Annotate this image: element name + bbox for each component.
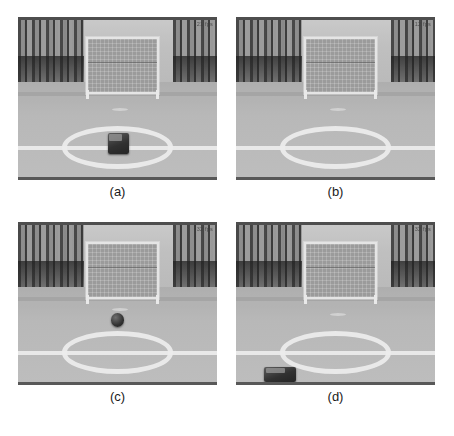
- fps-overlay-label: 32 fps: [197, 227, 213, 233]
- goal-crossbar-line: [88, 62, 158, 63]
- center-circle: [280, 331, 391, 373]
- panel-c-caption: (c): [18, 389, 217, 404]
- fps-overlay-label: 32 fps: [415, 227, 431, 233]
- goal: [86, 37, 160, 95]
- goal-post-left: [86, 90, 89, 99]
- goal-post-left: [304, 90, 307, 99]
- goal-post-right: [156, 90, 159, 99]
- goal-post-right: [374, 295, 377, 304]
- panel-c-frame: 32 fps: [18, 222, 217, 385]
- frame-bottom-border: [236, 177, 435, 180]
- figure-panel-grid: 21 fps (a) 12 fps: [0, 0, 454, 436]
- frame-bottom-border: [236, 382, 435, 385]
- robot-object: [264, 367, 296, 382]
- robot-object: [108, 133, 130, 154]
- panel-d-frame: 32 fps: [236, 222, 435, 385]
- panel-a-caption: (a): [18, 184, 217, 199]
- panel-a: 21 fps: [18, 17, 217, 180]
- goal-post-right: [156, 295, 159, 304]
- goal: [86, 242, 160, 300]
- frame-bottom-border: [18, 177, 217, 180]
- goal: [304, 37, 378, 95]
- goal-crossbar-line: [306, 267, 376, 268]
- panel-c: 32 fps: [18, 222, 217, 385]
- fps-overlay-label: 12 fps: [415, 22, 431, 28]
- goal-post-left: [304, 295, 307, 304]
- frame-bottom-border: [18, 382, 217, 385]
- panel-b: 12 fps: [236, 17, 435, 180]
- fps-overlay-label: 21 fps: [197, 22, 213, 28]
- center-circle: [62, 331, 173, 373]
- goal-crossbar-line: [88, 267, 158, 268]
- robot-top-marker: [109, 134, 122, 141]
- goal-post-right: [374, 90, 377, 99]
- panel-b-frame: 12 fps: [236, 17, 435, 180]
- robot-top-marker: [266, 368, 285, 373]
- goal: [304, 242, 378, 300]
- goal-crossbar-line: [306, 62, 376, 63]
- panel-b-caption: (b): [236, 184, 435, 199]
- panel-d-caption: (d): [236, 389, 435, 404]
- goal-post-left: [86, 295, 89, 304]
- panel-a-frame: 21 fps: [18, 17, 217, 180]
- center-circle: [280, 126, 391, 168]
- panel-d: 32 fps: [236, 222, 435, 385]
